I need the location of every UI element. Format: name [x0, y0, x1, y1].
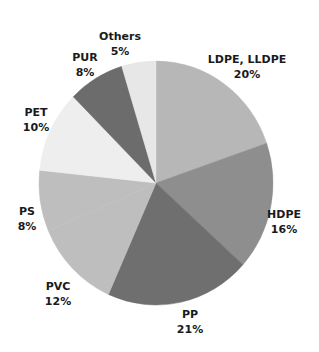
slice-label-name: HDPE: [267, 207, 301, 222]
slice-label-percent: 12%: [45, 294, 71, 309]
slice-label: PUR8%: [72, 50, 97, 80]
slice-label: LDPE, LLDPE20%: [208, 52, 286, 82]
slice-label-percent: 8%: [18, 219, 37, 234]
slice-label: PET10%: [23, 105, 49, 135]
slice-label-percent: 10%: [23, 120, 49, 135]
slice-label-name: PVC: [45, 279, 71, 294]
slice-label: HDPE16%: [267, 207, 301, 237]
slice-label: PVC12%: [45, 279, 71, 309]
slice-label-percent: 16%: [267, 222, 301, 237]
slice-label-name: PET: [23, 105, 49, 120]
slice-label: PS8%: [18, 204, 37, 234]
pie-slices: [39, 61, 273, 305]
slice-label-name: PS: [18, 204, 37, 219]
slice-label-percent: 20%: [208, 67, 286, 82]
slice-label-percent: 21%: [177, 322, 203, 337]
slice-label-name: Others: [99, 29, 141, 44]
slice-label-percent: 5%: [99, 44, 141, 59]
slice-label: PP21%: [177, 307, 203, 337]
slice-label-percent: 8%: [72, 65, 97, 80]
slice-label-name: LDPE, LLDPE: [208, 52, 286, 67]
slice-label-name: PP: [177, 307, 203, 322]
slice-label: Others5%: [99, 29, 141, 59]
slice-label-name: PUR: [72, 50, 97, 65]
